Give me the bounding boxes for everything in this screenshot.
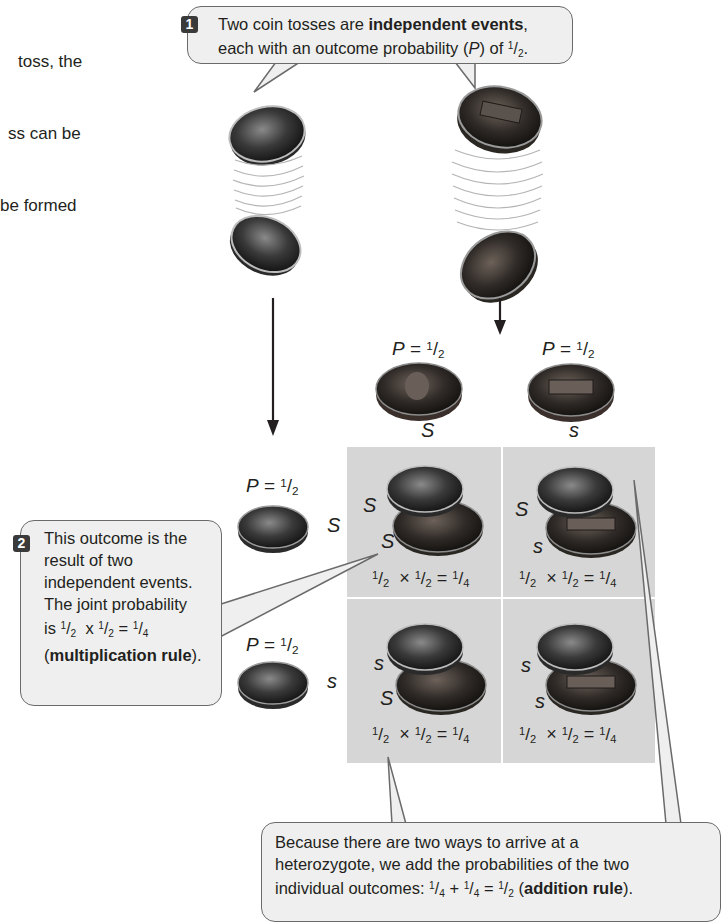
callout3-line3: individual outcomes: 1/4 + 1/4 = 1/2 (ad…: [275, 875, 720, 904]
callout-addition-rule: Because there are two ways to arrive at …: [261, 822, 721, 922]
callout3-line1: Because there are two ways to arrive at …: [275, 831, 720, 853]
callout3-line2: heterozygote, we add the probabilities o…: [275, 853, 720, 875]
